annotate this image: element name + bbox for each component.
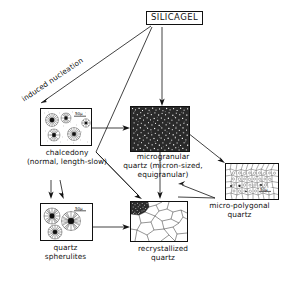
silicagel-box[interactable]: SILICAGEL: [146, 11, 203, 25]
dense-speckle-texture: [131, 107, 189, 151]
edge-spherulites-to-recrystallized: [91, 224, 130, 229]
edge-silicagel-to-microgranular: [159, 27, 164, 106]
microgranular-quartz-micrograph[interactable]: [130, 106, 190, 152]
silicagel-label: SILICAGEL: [151, 13, 198, 22]
diagram-canvas: SILICAGEL induced nucleation: [0, 0, 287, 281]
micro-polygonal-quartz-micrograph[interactable]: 50µ: [225, 163, 279, 200]
microgranular-quartz-caption: microgranular quartz (micron-sized, equi…: [113, 152, 213, 179]
radial-spherulites-texture: 50µ: [41, 204, 92, 240]
edge-silicagel-to-chalcedony: [41, 26, 151, 103]
fine-polygonal-mosaic-texture: 50µ: [226, 164, 278, 199]
chalcedony-micrograph[interactable]: 50µ: [40, 108, 92, 146]
quartz-spherulites-micrograph[interactable]: 50µ: [40, 203, 93, 241]
svg-text:50µ: 50µ: [260, 187, 268, 192]
spherulites-caption-line-1: quartz: [23, 243, 108, 252]
coarse-polygonal-mosaic-texture: [131, 202, 187, 241]
induced-nucleation-label: induced nucleation: [20, 56, 85, 104]
micropolygonal-caption-line-1: micro-polygonal: [192, 201, 287, 210]
spherulitic-fibrous-texture: 50µ: [41, 109, 91, 145]
edge-micropolygonal-to-recrystallized: [178, 181, 215, 198]
microgranular-caption-line-1: microgranular: [113, 152, 213, 161]
recrystallized-caption-line-2: quartz: [118, 253, 208, 262]
micro-polygonal-quartz-caption: micro-polygonal quartz: [192, 201, 287, 219]
recrystallized-caption-line-1: recrystallized: [118, 244, 208, 253]
recrystallized-quartz-caption: recrystallized quartz: [118, 244, 208, 262]
svg-text:50µ: 50µ: [75, 206, 83, 211]
quartz-spherulites-caption: quartz spherulites: [23, 243, 108, 261]
svg-text:50µ: 50µ: [75, 111, 83, 116]
recrystallized-quartz-micrograph[interactable]: [130, 201, 188, 242]
micropolygonal-caption-line-2: quartz: [192, 210, 287, 219]
microgranular-caption-line-3: equigranular): [113, 170, 213, 179]
edge-chalcedony-to-microgranular: [90, 125, 130, 130]
microgranular-caption-line-2: quartz (micron-sized,: [113, 161, 213, 170]
edge-chalcedony-to-spherulites: [48, 180, 63, 199]
spherulites-caption-line-2: spherulites: [23, 252, 108, 261]
